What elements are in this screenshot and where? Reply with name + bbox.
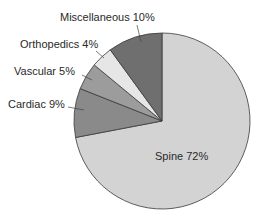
- pie-chart: Miscellaneous 10% Orthopedics 4% Vascula…: [0, 0, 255, 220]
- label-spine: Spine 72%: [155, 150, 208, 162]
- label-orthopedics: Orthopedics 4%: [20, 38, 98, 50]
- label-cardiac: Cardiac 9%: [8, 98, 65, 110]
- label-vascular: Vascular 5%: [14, 65, 75, 77]
- label-miscellaneous: Miscellaneous 10%: [60, 11, 155, 23]
- leader-orthopedics: [96, 51, 104, 58]
- pie-slices: [74, 33, 250, 209]
